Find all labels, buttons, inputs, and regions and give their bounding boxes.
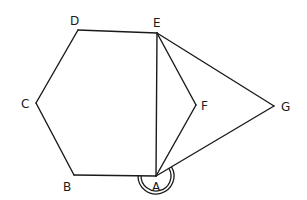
vertex-label-e: E [153, 16, 161, 30]
vertex-label-a: A [152, 180, 161, 194]
vertex-label-b: B [63, 180, 71, 194]
edge-ga [156, 106, 274, 176]
edge-bc [36, 103, 74, 175]
vertex-label-c: C [21, 97, 29, 111]
vertex-label-d: D [70, 14, 79, 28]
edge-cd [36, 30, 78, 103]
edge-ef [157, 33, 196, 105]
edge-fa [156, 105, 196, 176]
vertex-label-g: G [281, 100, 290, 114]
vertex-label-f: F [201, 99, 208, 113]
edge-eg [157, 33, 274, 106]
edge-ea [156, 33, 157, 176]
edge-de [78, 30, 157, 33]
edge-ab [74, 175, 156, 176]
geometry-diagram: ABCDEFG [0, 0, 307, 200]
edges-layer [36, 30, 274, 176]
